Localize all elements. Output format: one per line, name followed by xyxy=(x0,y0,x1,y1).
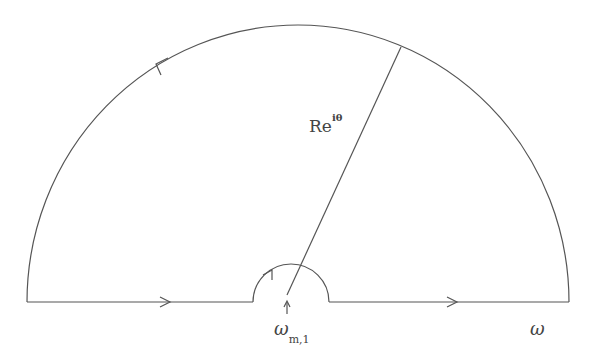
radius-label-base: Re xyxy=(309,116,332,136)
radius-label: Reiθ xyxy=(309,116,342,136)
pole-label-symbol: ω xyxy=(274,318,289,339)
pole-label-subscript: m,1 xyxy=(289,333,310,346)
outer-semicircle-arc xyxy=(27,25,569,302)
radius-line xyxy=(287,47,401,295)
indentation-semicircle xyxy=(253,264,329,302)
radius-label-exponent: iθ xyxy=(332,112,342,123)
pole-label: ωm,1 xyxy=(274,318,310,343)
contour-diagram xyxy=(0,0,595,352)
axis-variable-label: ω xyxy=(530,318,545,339)
